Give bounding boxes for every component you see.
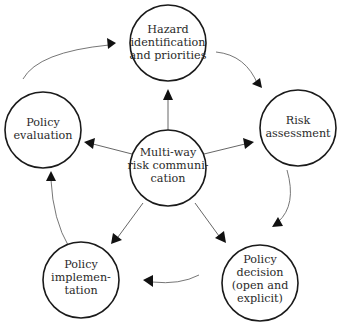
arrowhead-icon — [163, 89, 173, 100]
arrowhead-icon — [111, 233, 122, 244]
arrow-implementation-to-evaluation — [51, 180, 69, 247]
node-decision: Policy decision (open and explicit) — [222, 245, 298, 321]
arrowhead-icon — [46, 171, 56, 181]
arrow-evaluation-to-hazard — [23, 45, 109, 79]
arrow-hub-to-risk — [204, 144, 245, 154]
node-label: Policy — [64, 258, 98, 271]
node-label: risk communi- — [128, 159, 209, 172]
arrow-hub-to-evaluation — [93, 144, 132, 154]
node-hub: Multi-way risk communi- cation — [128, 130, 209, 206]
node-label: evaluation — [13, 129, 72, 142]
node-label: decision — [237, 266, 284, 279]
arrowhead-icon — [84, 138, 95, 149]
node-label: (open and — [232, 279, 289, 292]
node-label: tation — [64, 284, 97, 297]
arrowhead-icon — [107, 38, 116, 49]
node-label: and priorities — [130, 49, 207, 62]
arrowhead-icon — [143, 275, 153, 287]
node-hazard: Hazard identification and priorities — [130, 5, 207, 81]
node-label: cation — [151, 172, 186, 185]
arrow-hub-to-implementation — [118, 203, 143, 237]
node-label: explicit) — [237, 292, 283, 305]
node-risk: Risk assessment — [260, 90, 336, 166]
node-label: identification — [130, 36, 205, 49]
arrow-hub-to-decision — [195, 203, 219, 236]
node-label: implemen- — [51, 271, 111, 284]
node-label: Multi-way — [140, 146, 197, 159]
arrow-decision-to-implementation — [152, 275, 199, 283]
node-implementation: Policy implemen- tation — [43, 242, 119, 318]
node-label: Hazard — [147, 23, 189, 36]
node-evaluation: Policy evaluation — [5, 92, 81, 168]
node-label: assessment — [265, 127, 331, 140]
arrowhead-icon — [252, 78, 262, 88]
arrowhead-icon — [243, 138, 254, 149]
node-label: Policy — [26, 116, 60, 129]
node-label: Risk — [286, 114, 311, 127]
node-label: Policy — [243, 253, 277, 266]
arrow-risk-to-decision — [278, 170, 290, 222]
risk-communication-diagram: Hazard identification and priorities Ris… — [0, 0, 339, 324]
arrow-hazard-to-risk — [216, 52, 258, 85]
